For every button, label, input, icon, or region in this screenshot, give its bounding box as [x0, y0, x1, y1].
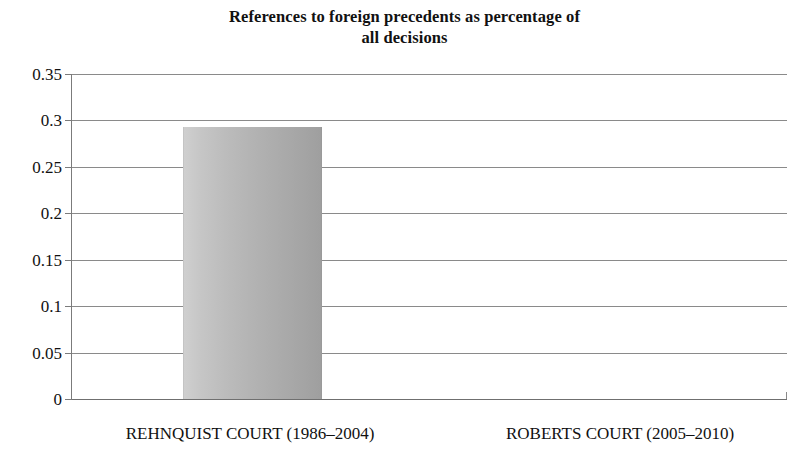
- y-tick-label-0: 0: [54, 391, 63, 408]
- chart-title: References to foreign precedents as perc…: [0, 6, 809, 48]
- chart-title-line-1: References to foreign precedents as perc…: [0, 6, 809, 27]
- y-tick-label-0.15: 0.15: [32, 252, 62, 269]
- plot-area: [72, 74, 787, 399]
- y-tick-label-0.05: 0.05: [32, 345, 62, 362]
- bar-rehnquist-court: [183, 127, 322, 399]
- y-tick-label-0.3: 0.3: [41, 112, 62, 129]
- y-tick-label-0.2: 0.2: [41, 205, 62, 222]
- gridline-0.25: [72, 167, 787, 168]
- gridline-0.05: [72, 353, 787, 354]
- y-tick-label-0.25: 0.25: [32, 159, 62, 176]
- y-tick-label-0.1: 0.1: [41, 298, 62, 315]
- gridline-0.3: [72, 120, 787, 121]
- x-axis-label-roberts: ROBERTS COURT (2005–2010): [430, 424, 809, 444]
- gridline-baseline-0: [72, 399, 787, 400]
- bar-chart-figure: References to foreign precedents as perc…: [0, 0, 809, 465]
- gridline-0.15: [72, 260, 787, 261]
- y-tick-label-0.35: 0.35: [32, 66, 62, 83]
- gridline-0.35: [72, 74, 787, 75]
- gridline-0.2: [72, 213, 787, 214]
- gridline-0.1: [72, 306, 787, 307]
- x-axis-label-rehnquist: REHNQUIST COURT (1986–2004): [60, 424, 440, 444]
- chart-title-line-2: all decisions: [0, 27, 809, 48]
